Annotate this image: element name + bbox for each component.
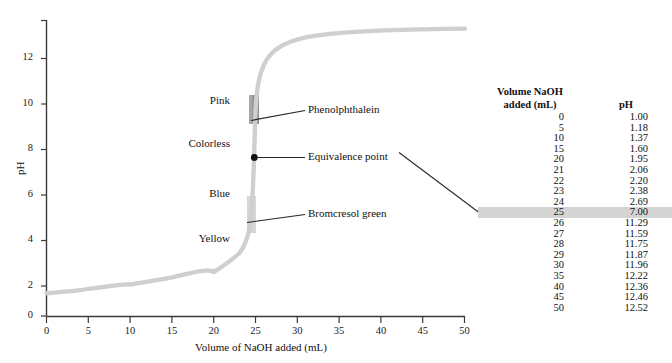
- y-tick-2: 2: [8, 279, 33, 290]
- label-equivalence-point: Equivalence point: [308, 150, 388, 162]
- table-row: 0 1.00: [478, 112, 672, 123]
- cell-volume: 21: [486, 165, 564, 176]
- cell-volume: 25: [486, 207, 564, 218]
- cell-volume: 5: [486, 123, 564, 134]
- table-row-leader: [399, 153, 480, 239]
- x-tick-35: 35: [329, 325, 349, 336]
- cell-volume: 29: [486, 250, 564, 261]
- table-row: 50 12.52: [478, 303, 672, 314]
- cell-volume: 24: [486, 197, 564, 208]
- x-tick-5: 5: [78, 325, 98, 336]
- cell-ph: 2.06: [596, 165, 648, 176]
- table-row: 26 11.29: [478, 218, 672, 229]
- x-tick-10: 10: [120, 325, 140, 336]
- x-tick-30: 30: [287, 325, 307, 336]
- y-tick-8: 8: [8, 142, 33, 153]
- y-tick-12: 12: [8, 51, 33, 62]
- cell-volume: 45: [486, 292, 564, 303]
- cell-volume: 30: [486, 260, 564, 271]
- cell-ph: 11.29: [596, 218, 648, 229]
- table-header-volume: Volume NaOH added (mL): [478, 86, 582, 111]
- cell-volume: 35: [486, 271, 564, 282]
- cell-volume: 26: [486, 218, 564, 229]
- plot-svg: [0, 0, 480, 363]
- table-header-ph: pH: [604, 99, 648, 112]
- cell-ph: 12.52: [596, 303, 648, 314]
- cell-volume: 20: [486, 154, 564, 165]
- x-tick-20: 20: [204, 325, 224, 336]
- label-blue: Blue: [168, 187, 230, 199]
- phenolphthalein-leader: [251, 111, 305, 121]
- label-bromcresol-green: Bromcresol green: [308, 207, 387, 219]
- y-tick-10: 10: [8, 97, 33, 108]
- y-tick-0: 0: [8, 309, 33, 320]
- label-yellow: Yellow: [158, 232, 230, 244]
- table-row: 35 12.22: [478, 271, 672, 282]
- label-pink: Pink: [168, 94, 230, 106]
- label-colorless: Colorless: [150, 137, 230, 149]
- x-tick-15: 15: [162, 325, 182, 336]
- cell-volume: 22: [486, 176, 564, 187]
- y-tick-6: 6: [8, 188, 33, 199]
- cell-volume: 10: [486, 133, 564, 144]
- label-phenolphthalein: Phenolphthalein: [308, 103, 380, 115]
- cell-volume: 40: [486, 282, 564, 293]
- x-axis-title: Volume of NaOH added (mL): [136, 341, 386, 353]
- table-header-volume-line2: added (mL): [504, 99, 557, 110]
- cell-volume: 23: [486, 186, 564, 197]
- y-axis-ticks: [41, 59, 47, 317]
- x-tick-45: 45: [413, 325, 433, 336]
- table-header-volume-line1: Volume NaOH: [497, 86, 563, 97]
- cell-volume: 28: [486, 239, 564, 250]
- cell-volume: 15: [486, 144, 564, 155]
- cell-volume: 0: [486, 112, 564, 123]
- cell-ph: 1.00: [596, 112, 648, 123]
- cell-volume: 27: [486, 229, 564, 240]
- titration-data-table: Volume NaOH added (mL) pH 0 1.00 5 1.18 …: [478, 86, 672, 313]
- x-tick-40: 40: [371, 325, 391, 336]
- x-tick-25: 25: [246, 325, 266, 336]
- cell-ph: 12.22: [596, 271, 648, 282]
- titration-curve: [47, 29, 466, 294]
- y-tick-4: 4: [8, 233, 33, 244]
- titration-figure: 12 10 8 6 4 2 0 0 5 10 15 20 25 30 35 40…: [0, 0, 672, 363]
- x-tick-50: 50: [455, 325, 475, 336]
- y-axis-title: pH: [14, 162, 26, 175]
- cell-volume: 50: [486, 303, 564, 314]
- phenolphthalein-band-edge: [249, 95, 253, 124]
- x-axis-ticks: [47, 317, 465, 324]
- x-tick-0: 0: [37, 325, 57, 336]
- table-header: Volume NaOH added (mL) pH: [478, 86, 672, 112]
- titration-plot: 12 10 8 6 4 2 0 0 5 10 15 20 25 30 35 40…: [0, 0, 480, 363]
- table-row: 21 2.06: [478, 165, 672, 176]
